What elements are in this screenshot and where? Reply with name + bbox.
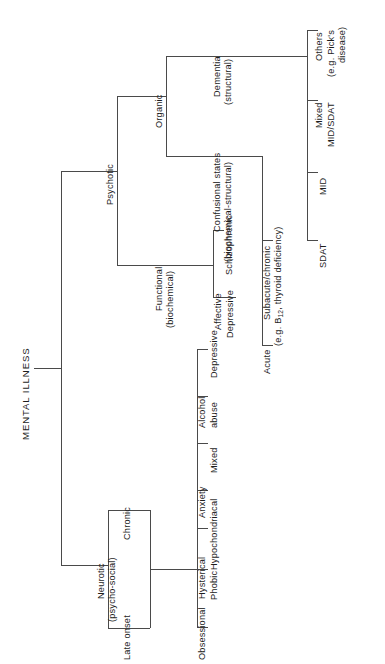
node-organic[interactable]: Organic — [154, 94, 164, 128]
node-anxiety[interactable]: Anxiety — [197, 486, 207, 518]
node-late-onset[interactable]: Late onset — [122, 615, 132, 660]
node-subacute-chronic[interactable]: Subacute/chronic — [262, 246, 272, 320]
node-confusional-states[interactable]: Confusional states — [212, 153, 222, 232]
node-obsessional[interactable]: Obsessional — [197, 607, 207, 660]
diagram-canvas: MENTAL ILLNESS Psychotic Neurotic (psych… — [0, 0, 385, 664]
node-depressive-neurotic[interactable]: Depressive — [209, 330, 219, 378]
node-affective[interactable]: Affective — [213, 293, 223, 330]
mental-illness-tree: MENTAL ILLNESS Psychotic Neurotic (psych… — [0, 0, 385, 664]
node-mixed-mid-sdat[interactable]: Mixed — [314, 102, 324, 128]
node-acute[interactable]: Acute — [262, 350, 272, 375]
node-psychotic[interactable]: Psychotic — [105, 164, 115, 205]
page-title: MENTAL ILLNESS — [20, 347, 31, 440]
node-depressive[interactable]: Depressive — [225, 290, 235, 338]
node-mid[interactable]: MID — [318, 177, 328, 195]
node-alcohol-abuse-sub: abuse — [209, 402, 219, 428]
node-schizophrenic[interactable]: Schizophrenic — [224, 214, 234, 275]
node-others-sub: (e.g. Pick's — [326, 30, 336, 77]
node-others-sub2: disease) — [337, 27, 347, 63]
node-subacute-chronic-sub: (e.g. B12, thyroid deficiency) — [273, 226, 284, 346]
subacute-sub-script: 12 — [277, 310, 284, 318]
node-phobic[interactable]: Phobic — [209, 571, 219, 600]
node-functional[interactable]: Functional — [154, 267, 164, 311]
node-chronic[interactable]: Chronic — [122, 507, 132, 540]
node-dementia[interactable]: Dementia — [212, 55, 222, 97]
subacute-sub-pre: (e.g. B — [273, 318, 283, 346]
node-hypochondriacal[interactable]: Hypochondriacal — [209, 499, 219, 570]
node-sdat[interactable]: SDAT — [318, 243, 328, 268]
node-functional-sub: (biochemical) — [165, 271, 175, 328]
node-mixed[interactable]: Mixed — [209, 447, 219, 473]
node-others[interactable]: Others — [314, 32, 324, 61]
node-alcohol-abuse[interactable]: Alcohol — [197, 396, 207, 428]
node-neurotic[interactable]: Neurotic — [96, 563, 106, 599]
node-hysterical[interactable]: Hysterical — [197, 557, 207, 599]
subacute-sub-post: , thyroid deficiency) — [273, 226, 283, 309]
node-dementia-sub: (structural) — [223, 59, 233, 105]
node-neurotic-sub: (psycho-social) — [107, 557, 117, 622]
node-mixed-mid-sdat-sub: MID/SDAT — [326, 102, 336, 147]
